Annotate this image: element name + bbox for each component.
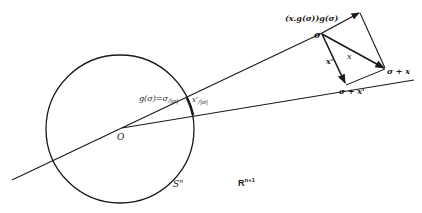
difference-edge <box>346 69 385 85</box>
line-through-sigma-plus-x-prime <box>122 80 414 128</box>
space-label: Rn+1 <box>238 177 256 188</box>
sphere-label: Sn <box>173 177 183 189</box>
line-through-sigma <box>12 33 322 180</box>
g-sigma-label: g(σ)=σ/|σ| <box>139 94 178 105</box>
sigma-plus-x-prime-label: σ + x' <box>339 86 364 96</box>
origin-label: O <box>117 132 125 142</box>
x-prime-label: x' <box>325 56 333 66</box>
x-label: x <box>347 52 352 61</box>
sigma-plus-x-label: σ + x <box>387 66 410 76</box>
parallelogram-edge <box>360 13 385 68</box>
projection-vector-label: (x.g(σ))g(σ) <box>285 13 338 23</box>
sigma-label: σ <box>314 30 321 40</box>
x-prime-projection-label: x'/|σ| <box>192 96 208 106</box>
sphere-diagram: O g(σ)=σ/|σ| x'/|σ| (x.g(σ))g(σ) σ x x' … <box>0 0 422 213</box>
